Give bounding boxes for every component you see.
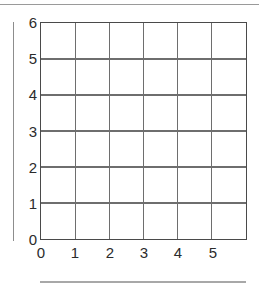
x-axis-tick-label: 2 — [98, 244, 122, 261]
figure-container: 6 5 4 3 2 1 0 0 1 2 3 4 — [0, 0, 259, 291]
x-axis-tick-label: 5 — [201, 244, 225, 261]
y-axis-tick-label: 4 — [18, 87, 37, 102]
y-axis-tick-label: 1 — [18, 196, 37, 211]
y-axis-spine — [13, 22, 14, 241]
top-divider-rule — [0, 4, 259, 5]
grid-lines — [41, 23, 246, 239]
plot-grid — [40, 22, 247, 240]
y-axis-tick-label: 6 — [18, 15, 37, 30]
x-axis-tick-label: 4 — [166, 244, 190, 261]
x-axis-tick-label: 3 — [132, 244, 156, 261]
x-axis-tick-label: 0 — [29, 244, 53, 261]
y-axis-tick-label: 2 — [18, 160, 37, 175]
x-axis-tick-label-group: 0 1 2 3 4 5 — [0, 244, 259, 264]
x-axis-tick-label: 1 — [63, 244, 87, 261]
y-axis-tick-label: 3 — [18, 124, 37, 139]
y-axis-tick-label: 5 — [18, 51, 37, 66]
bottom-divider-rule — [40, 281, 246, 283]
